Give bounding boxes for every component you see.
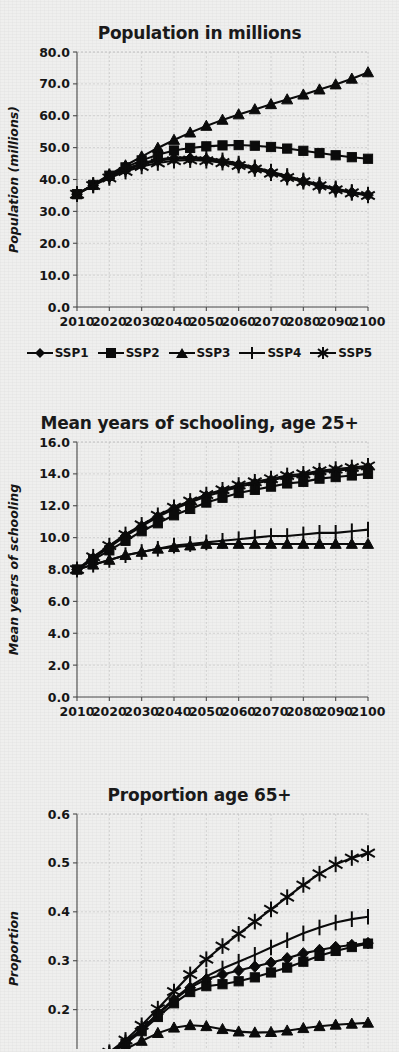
plus-marker (239, 346, 265, 360)
schooling-line-chart: 0.02.04.06.08.010.012.014.016.0201020202… (0, 433, 399, 733)
svg-text:2100: 2100 (351, 314, 386, 329)
svg-text:12.0: 12.0 (39, 498, 70, 513)
plot-area-population: 0.010.020.030.040.050.060.070.080.020102… (0, 43, 399, 343)
proportion-line-chart: 0.10.20.30.40.50.6Proportion (0, 805, 399, 1049)
svg-text:16.0: 16.0 (39, 434, 70, 449)
legend-item-ssp2[interactable]: SSP2 (98, 346, 160, 360)
svg-text:2030: 2030 (124, 704, 159, 719)
svg-text:2040: 2040 (157, 704, 192, 719)
svg-text:0.2: 0.2 (48, 1002, 70, 1017)
svg-text:2080: 2080 (286, 704, 321, 719)
svg-text:6.0: 6.0 (48, 594, 70, 609)
plot-area-schooling: 0.02.04.06.08.010.012.014.016.0201020202… (0, 433, 399, 733)
svg-text:0.6: 0.6 (48, 806, 70, 821)
svg-text:20.0: 20.0 (39, 235, 70, 250)
legend-label-ssp2: SSP2 (126, 346, 160, 360)
svg-text:80.0: 80.0 (39, 44, 70, 59)
svg-text:30.0: 30.0 (39, 204, 70, 219)
svg-text:Population (millions): Population (millions) (6, 106, 21, 253)
svg-text:2020: 2020 (92, 704, 127, 719)
chart-title-schooling: Mean years of schooling, age 25+ (0, 400, 399, 433)
population-line-chart: 0.010.020.030.040.050.060.070.080.020102… (0, 43, 399, 343)
svg-text:50.0: 50.0 (39, 140, 70, 155)
svg-text:4.0: 4.0 (48, 625, 70, 640)
chart-panel-schooling: Mean years of schooling, age 25+ 0.02.04… (0, 400, 399, 780)
svg-text:2090: 2090 (318, 314, 353, 329)
legend-item-ssp5[interactable]: SSP5 (310, 346, 372, 360)
svg-text:40.0: 40.0 (39, 172, 70, 187)
legend-item-ssp4[interactable]: SSP4 (239, 346, 301, 360)
chart-title-proportion: Proportion age 65+ (0, 780, 399, 805)
svg-text:0.0: 0.0 (48, 689, 70, 704)
chart-panel-population: Population in millions 0.010.020.030.040… (0, 0, 399, 400)
asterisk-marker (70, 458, 375, 577)
svg-text:2030: 2030 (124, 314, 159, 329)
asterisk-marker (70, 845, 375, 1049)
legend-label-ssp1: SSP1 (55, 346, 89, 360)
svg-text:0.4: 0.4 (48, 904, 70, 919)
svg-text:60.0: 60.0 (39, 108, 70, 123)
series-legend: SSP1 SSP2 SSP3 SSP4 (0, 346, 399, 360)
svg-text:2060: 2060 (221, 314, 256, 329)
svg-text:2050: 2050 (189, 704, 224, 719)
svg-text:2070: 2070 (254, 704, 289, 719)
svg-text:70.0: 70.0 (39, 76, 70, 91)
svg-text:2020: 2020 (92, 314, 127, 329)
svg-text:Proportion: Proportion (6, 911, 21, 986)
svg-text:14.0: 14.0 (39, 466, 70, 481)
svg-text:8.0: 8.0 (48, 562, 70, 577)
asterisk-marker (310, 346, 336, 360)
legend-label-ssp4: SSP4 (267, 346, 301, 360)
svg-text:10.0: 10.0 (39, 530, 70, 545)
triangle-marker (169, 346, 195, 360)
svg-text:0.5: 0.5 (48, 855, 70, 870)
chart-title-population: Population in millions (0, 0, 399, 43)
diamond-marker (27, 346, 53, 360)
svg-text:2010: 2010 (60, 704, 95, 719)
svg-text:2070: 2070 (254, 314, 289, 329)
svg-text:2080: 2080 (286, 314, 321, 329)
svg-text:2040: 2040 (157, 314, 192, 329)
svg-text:10.0: 10.0 (39, 267, 70, 282)
plus-marker (77, 522, 368, 577)
svg-text:2100: 2100 (351, 704, 386, 719)
svg-text:2010: 2010 (60, 314, 95, 329)
svg-text:2.0: 2.0 (48, 657, 70, 672)
svg-text:2050: 2050 (189, 314, 224, 329)
legend-label-ssp3: SSP3 (197, 346, 231, 360)
svg-text:Mean years of schooling: Mean years of schooling (6, 483, 21, 654)
svg-text:2060: 2060 (221, 704, 256, 719)
chart-panel-proportion: Proportion age 65+ 0.10.20.30.40.50.6Pro… (0, 780, 399, 1052)
svg-text:2090: 2090 (318, 704, 353, 719)
square-marker (98, 346, 124, 360)
asterisk-marker (70, 152, 375, 203)
triangle-marker (71, 1017, 373, 1049)
svg-text:0.0: 0.0 (48, 299, 70, 314)
plot-area-proportion: 0.10.20.30.40.50.6Proportion (0, 805, 399, 1049)
svg-text:0.3: 0.3 (48, 953, 70, 968)
legend-item-ssp1[interactable]: SSP1 (27, 346, 89, 360)
legend-item-ssp3[interactable]: SSP3 (169, 346, 231, 360)
legend-label-ssp5: SSP5 (338, 346, 372, 360)
